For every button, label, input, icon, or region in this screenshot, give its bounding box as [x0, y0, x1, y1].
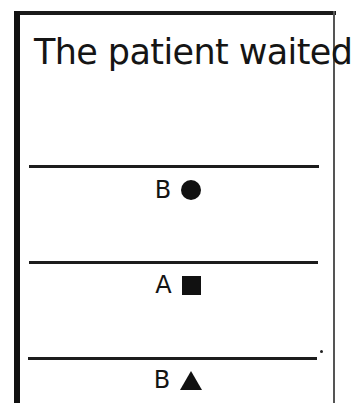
option-label: B: [154, 367, 170, 393]
option-row-2: A: [0, 272, 355, 298]
divider-line-3: [28, 357, 317, 360]
stray-dot-mark: [320, 350, 323, 353]
option-row-1: B: [0, 177, 355, 203]
frame-left-border: [14, 11, 20, 403]
frame-top-border: [15, 11, 336, 15]
option-row-3: B: [0, 367, 355, 393]
option-label: A: [155, 272, 171, 298]
divider-line-1: [29, 165, 319, 168]
sentence-fragment: The patient waited: [34, 30, 352, 74]
filled-triangle-icon: [180, 371, 202, 390]
filled-circle-icon: [181, 180, 201, 200]
divider-line-2: [29, 261, 318, 264]
filled-square-icon: [182, 276, 201, 295]
option-label: B: [155, 177, 171, 203]
